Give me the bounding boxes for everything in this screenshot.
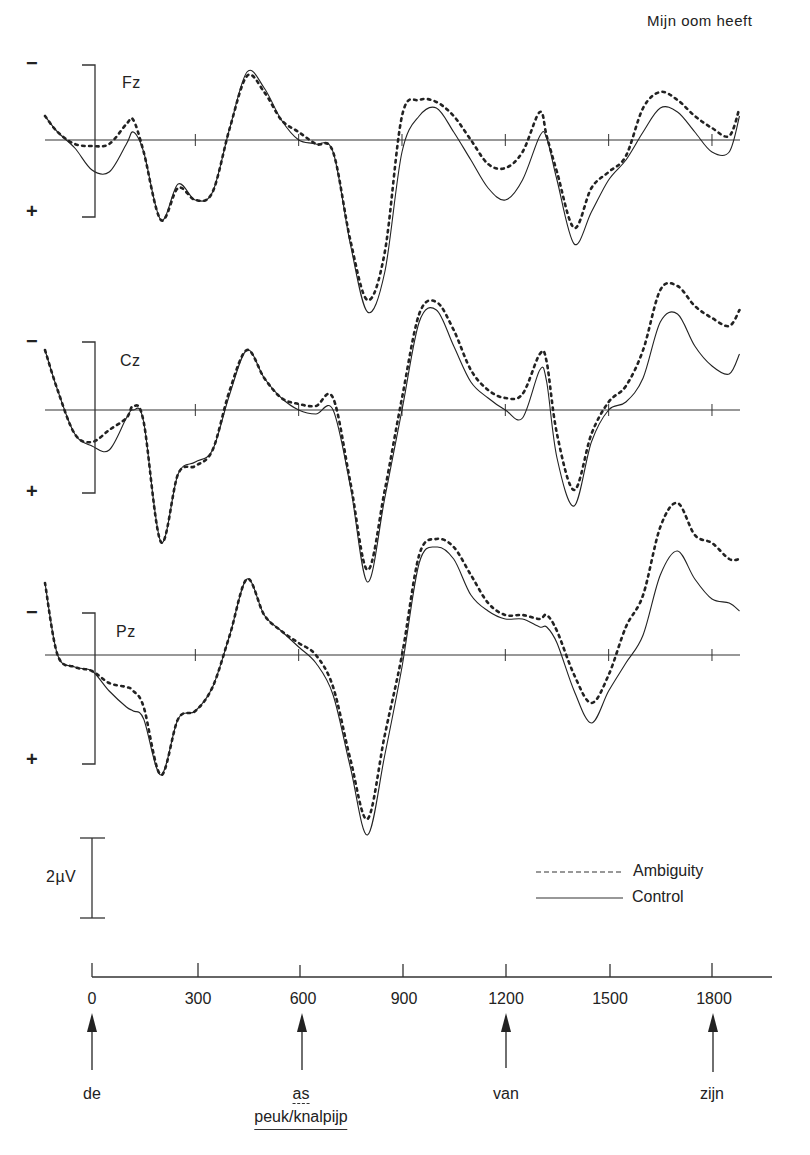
channel-label-fz: Fz: [122, 74, 141, 92]
panel-pz: [45, 503, 740, 835]
legend-control-label: Control: [632, 888, 684, 906]
x-tick-1800: 1800: [696, 990, 732, 1008]
channel-label-cz: Cz: [120, 352, 141, 370]
scale-bar-label: 2µV: [46, 868, 76, 886]
word-label-van: van: [493, 1085, 519, 1103]
arrow-icon-as: [297, 1013, 307, 1070]
arrow-icon-van: [501, 1013, 511, 1068]
polarity-bracket-fz: [82, 65, 95, 217]
ambiguity-waveform: [45, 283, 740, 570]
scale-bar: [80, 838, 105, 918]
polarity-bracket-cz: [82, 342, 95, 493]
word-label-zijn: zijn: [700, 1085, 724, 1103]
x-tick-1500: 1500: [592, 990, 628, 1008]
time-axis: [92, 963, 772, 977]
panel-fz: [45, 70, 740, 312]
arrow-icon-de: [87, 1013, 97, 1070]
positive-sign-fz: +: [26, 200, 38, 223]
arrow-icon-zijn: [708, 1013, 718, 1072]
control-waveform: [45, 547, 740, 835]
word-label-as: as: [293, 1085, 310, 1104]
word-label-de: de: [83, 1085, 101, 1103]
negative-sign-fz: −: [26, 52, 38, 75]
positive-sign-cz: +: [26, 480, 38, 503]
ambiguity-waveform: [45, 75, 740, 301]
word-label-as-wrapper: as: [293, 1085, 310, 1103]
sentence-context-title: Mijn oom heeft: [647, 12, 752, 29]
x-tick-600: 600: [290, 990, 317, 1008]
ambiguity-waveform: [45, 503, 740, 819]
legend-ambiguity-label: Ambiguity: [633, 862, 703, 880]
x-tick-900: 900: [391, 990, 418, 1008]
erp-chart: [0, 0, 810, 1155]
word-label-peuk-knalpijp: peuk/knalpijp: [254, 1108, 347, 1130]
x-tick-0: 0: [88, 990, 97, 1008]
x-tick-300: 300: [185, 990, 212, 1008]
negative-sign-pz: −: [26, 601, 38, 624]
polarity-bracket-pz: [82, 613, 95, 764]
x-tick-1200: 1200: [488, 990, 524, 1008]
channel-label-pz: Pz: [116, 623, 136, 641]
negative-sign-cz: −: [26, 330, 38, 353]
positive-sign-pz: +: [26, 748, 38, 771]
panel-cz: [45, 283, 740, 582]
waveform-panels: [45, 70, 740, 835]
